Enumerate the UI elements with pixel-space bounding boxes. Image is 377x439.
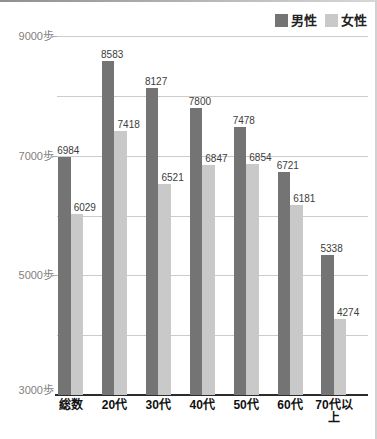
y-axis-tick-7000 [51, 156, 57, 157]
bar-女性-30代 [158, 184, 171, 395]
value-label-男性-70代以上: 5338 [320, 243, 342, 254]
bar-男性-総数 [58, 157, 71, 395]
y-axis-tick-5000 [51, 275, 57, 276]
y-axis-label-3000: 3000歩 [4, 383, 54, 397]
category-label-40代: 40代 [180, 399, 224, 412]
value-label-男性-40代: 7800 [189, 96, 211, 107]
value-label-女性-総数: 6029 [74, 202, 96, 213]
value-label-男性-20代: 8583 [101, 49, 123, 60]
bar-男性-30代 [146, 88, 159, 395]
y-axis-label-7000: 7000歩 [4, 149, 54, 163]
gridline-9000 [57, 36, 368, 37]
bar-男性-20代 [102, 61, 115, 395]
value-label-男性-60代: 6721 [277, 160, 299, 171]
value-label-女性-20代: 7418 [118, 119, 140, 130]
bar-男性-40代 [190, 108, 203, 395]
category-label-30代: 30代 [136, 399, 180, 412]
bar-男性-70代以上 [321, 255, 334, 395]
plot-area: 9000歩7000歩5000歩3000歩69846029総数8583741820… [0, 0, 377, 439]
value-label-男性-30代: 8127 [145, 76, 167, 87]
bar-女性-70代以上 [334, 319, 347, 395]
value-label-女性-50代: 6854 [249, 152, 271, 163]
bar-男性-60代 [278, 172, 291, 395]
value-label-女性-40代: 6847 [205, 153, 227, 164]
category-label-70代以上: 70代以上 [312, 399, 356, 425]
bar-chart: 男性 女性 9000歩7000歩5000歩3000歩69846029総数8583… [0, 0, 377, 439]
value-label-女性-60代: 6181 [293, 193, 315, 204]
category-label-総数: 総数 [49, 399, 93, 412]
value-label-男性-50代: 7478 [233, 115, 255, 126]
y-axis-tick-9000 [51, 36, 57, 37]
bar-女性-40代 [202, 165, 215, 395]
value-label-女性-30代: 6521 [161, 172, 183, 183]
category-label-20代: 20代 [92, 399, 136, 412]
category-label-60代: 60代 [268, 399, 312, 412]
value-label-男性-総数: 6984 [57, 145, 79, 156]
bar-女性-20代 [114, 131, 127, 395]
bar-女性-総数 [71, 214, 84, 395]
bar-女性-50代 [246, 164, 259, 395]
y-axis-label-5000: 5000歩 [4, 268, 54, 282]
bar-男性-50代 [234, 127, 247, 395]
y-axis-label-9000: 9000歩 [4, 29, 54, 43]
value-label-女性-70代以上: 4274 [337, 307, 359, 318]
bar-女性-60代 [290, 205, 303, 395]
category-label-50代: 50代 [224, 399, 268, 412]
